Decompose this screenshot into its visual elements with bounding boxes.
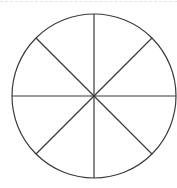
circle-eighths-figure <box>0 0 177 188</box>
figure-canvas <box>0 0 177 188</box>
figure-group <box>12 14 176 178</box>
